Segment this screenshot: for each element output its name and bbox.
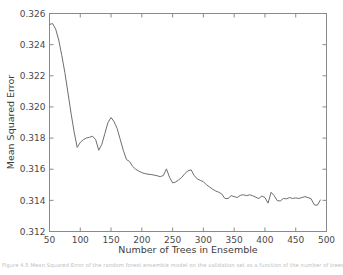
y-tick-label: 0.320 [20, 102, 46, 112]
figure-container: 50100150200250300350400450500 0.3120.314… [0, 0, 343, 275]
x-tick-label: 500 [318, 235, 335, 245]
x-tick-label: 300 [195, 235, 212, 245]
series-line-mean-squared-error [50, 24, 321, 206]
x-tick-label: 450 [287, 235, 304, 245]
x-axis-tick-labels: 50100150200250300350400450500 [44, 235, 336, 245]
x-tick-label: 350 [226, 235, 243, 245]
y-tick-label: 0.322 [20, 71, 46, 81]
figure-caption-strip: Figure 4.5 Mean Squared Error of the ran… [0, 262, 343, 275]
y-axis-tick-labels: 0.3120.3140.3160.3180.3200.3220.3240.326 [20, 9, 46, 237]
y-axis-title: Mean Squared Error [5, 75, 16, 170]
x-tick-label: 400 [256, 235, 273, 245]
y-tick-label: 0.318 [20, 133, 46, 143]
y-tick-label: 0.316 [20, 164, 46, 174]
y-tick-label: 0.314 [20, 196, 46, 206]
figure-caption-text: Figure 4.5 Mean Squared Error of the ran… [0, 262, 343, 269]
x-tick-label: 50 [44, 235, 56, 245]
y-tick-label: 0.312 [20, 227, 46, 237]
mse-vs-trees-line-chart: 50100150200250300350400450500 0.3120.314… [0, 0, 343, 275]
x-tick-label: 200 [133, 235, 150, 245]
x-tick-label: 250 [164, 235, 181, 245]
x-axis-title: Number of Trees in Ensemble [118, 244, 258, 255]
x-tick-label: 150 [102, 235, 119, 245]
y-tick-label: 0.326 [20, 9, 46, 19]
x-tick-label: 100 [72, 235, 89, 245]
y-tick-label: 0.324 [20, 40, 46, 50]
